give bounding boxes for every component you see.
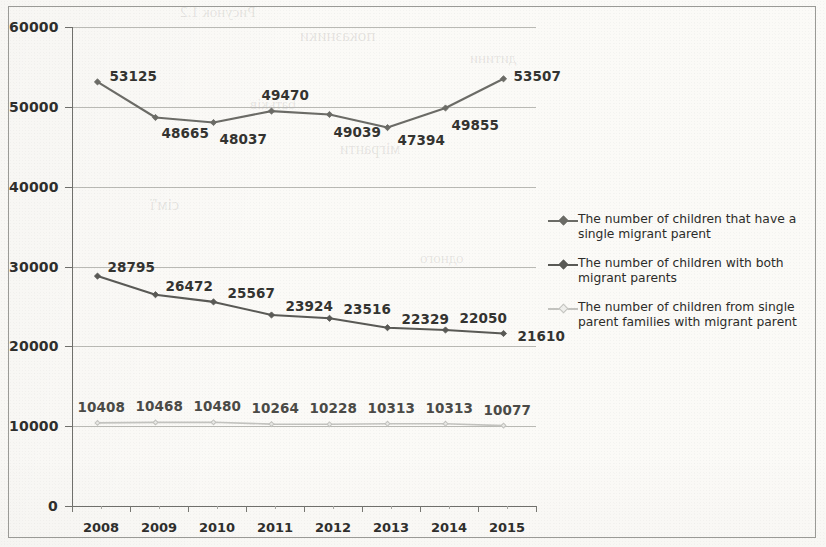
data-point-marker: [326, 315, 332, 321]
data-point-label: 53507: [514, 68, 561, 84]
data-point-label: 10408: [78, 399, 125, 415]
data-point-marker: [326, 111, 332, 117]
data-point-label: 10313: [426, 400, 473, 416]
legend-item-2[interactable]: The number of children with both migrant…: [548, 256, 810, 286]
data-point-label: 26472: [166, 278, 213, 294]
data-point-label: 49855: [452, 117, 499, 133]
chart-legend: The number of children that have a singl…: [548, 212, 810, 344]
data-point-label: 22050: [460, 310, 507, 326]
data-point-marker: [268, 312, 274, 318]
legend-marker-icon: [548, 257, 578, 273]
data-point-marker: [501, 423, 506, 428]
data-point-marker: [442, 327, 448, 333]
data-point-marker: [95, 420, 100, 425]
data-point-label: 28795: [108, 259, 155, 275]
data-point-label: 10480: [194, 398, 241, 414]
data-point-marker: [384, 325, 390, 331]
data-point-marker: [94, 273, 100, 279]
data-point-marker: [500, 330, 506, 336]
data-point-marker: [384, 124, 390, 130]
data-point-label: 10228: [310, 400, 357, 416]
legend-marker-icon: [548, 301, 578, 317]
scanned-page: Рисунок 1.2 показники дитини батьків міг…: [0, 0, 826, 547]
data-point-label: 49039: [334, 124, 381, 140]
legend-marker-icon: [548, 213, 578, 229]
series-line: [98, 422, 504, 425]
data-point-label: 10264: [252, 400, 299, 416]
data-point-marker: [443, 421, 448, 426]
series-1: [94, 76, 506, 131]
data-point-label: 23924: [286, 298, 333, 314]
data-point-label: 53125: [110, 68, 157, 84]
legend-item-label: The number of children that have a singl…: [578, 212, 810, 242]
data-point-marker: [210, 299, 216, 305]
data-point-marker: [152, 292, 158, 298]
data-point-marker: [210, 119, 216, 125]
legend-item-3[interactable]: The number of children from single paren…: [548, 300, 810, 330]
series-3: [95, 420, 506, 428]
data-point-marker: [211, 420, 216, 425]
legend-item-label: The number of children with both migrant…: [578, 256, 810, 286]
data-point-label: 25567: [228, 285, 275, 301]
data-point-marker: [327, 422, 332, 427]
data-point-label: 10077: [484, 402, 531, 418]
legend-item-label: The number of children from single paren…: [578, 300, 810, 330]
data-point-label: 47394: [398, 132, 445, 148]
data-point-label: 23516: [344, 301, 391, 317]
data-point-marker: [268, 108, 274, 114]
data-point-label: 22329: [402, 311, 449, 327]
data-point-marker: [269, 422, 274, 427]
data-point-label: 49470: [262, 87, 309, 103]
data-point-label: 48037: [220, 131, 267, 147]
data-point-label: 48665: [162, 125, 209, 141]
data-point-marker: [153, 420, 158, 425]
data-point-label: 10468: [136, 398, 183, 414]
data-point-label: 10313: [368, 400, 415, 416]
legend-item-1[interactable]: The number of children that have a singl…: [548, 212, 810, 242]
data-point-marker: [385, 421, 390, 426]
